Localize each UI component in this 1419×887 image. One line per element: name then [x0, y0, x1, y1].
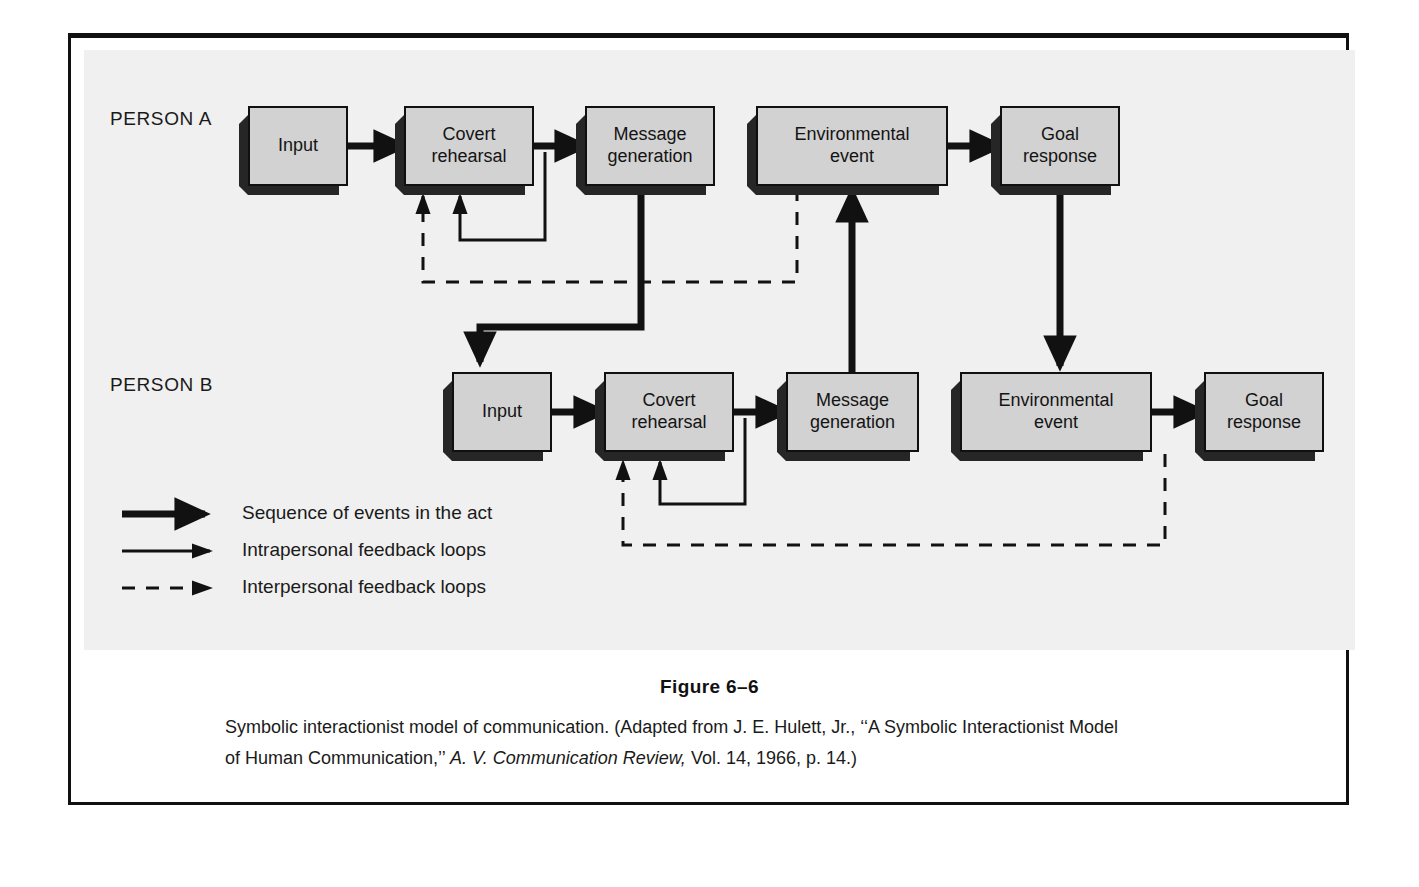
node-label: Goalresponse	[1000, 106, 1120, 186]
node-label: Input	[248, 106, 348, 186]
legend-item-interpersonal: Interpersonal feedback loops	[228, 576, 486, 598]
node-b-message-generation[interactable]: Messagegeneration	[786, 372, 919, 452]
node-b-goal-response[interactable]: Goalresponse	[1204, 372, 1324, 452]
node-a-covert-rehearsal[interactable]: Covertrehearsal	[404, 106, 534, 186]
legend-label: Interpersonal feedback loops	[242, 576, 486, 598]
node-a-environmental-event[interactable]: Environmentalevent	[756, 106, 948, 186]
person-a-label: PERSON A	[110, 108, 212, 130]
person-b-label: PERSON B	[110, 374, 213, 396]
node-b-input[interactable]: Input	[452, 372, 552, 452]
node-b-covert-rehearsal[interactable]: Covertrehearsal	[604, 372, 734, 452]
node-a-message-generation[interactable]: Messagegeneration	[585, 106, 715, 186]
node-a-goal-response[interactable]: Goalresponse	[1000, 106, 1120, 186]
legend-item-sequence: Sequence of events in the act	[228, 502, 492, 524]
node-label: Messagegeneration	[585, 106, 715, 186]
figure-root: PERSON A Input Covertrehearsal Messagege…	[0, 0, 1419, 887]
node-label: Environmentalevent	[756, 106, 948, 186]
node-label: Environmentalevent	[960, 372, 1152, 452]
node-label: Input	[452, 372, 552, 452]
node-label: Messagegeneration	[786, 372, 919, 452]
node-label: Goalresponse	[1204, 372, 1324, 452]
node-a-input[interactable]: Input	[248, 106, 348, 186]
caption-text-part2: Vol. 14, 1966, p. 14.)	[686, 748, 857, 768]
figure-caption: Symbolic interactionist model of communi…	[225, 712, 1130, 774]
caption-journal-title: A. V. Communication Review,	[450, 748, 686, 768]
figure-number: Figure 6–6	[0, 676, 1419, 698]
legend-item-intrapersonal: Intrapersonal feedback loops	[228, 539, 486, 561]
node-b-environmental-event[interactable]: Environmentalevent	[960, 372, 1152, 452]
node-label: Covertrehearsal	[404, 106, 534, 186]
legend-label: Sequence of events in the act	[242, 502, 492, 524]
node-label: Covertrehearsal	[604, 372, 734, 452]
legend-label: Intrapersonal feedback loops	[242, 539, 486, 561]
